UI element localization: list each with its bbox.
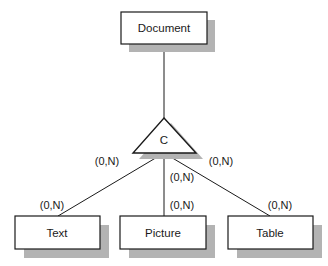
cardinality-picture: (0,N) [170,199,194,211]
connector-label: C [160,134,168,146]
entity-table[interactable]: Table [228,216,322,258]
entity-label: Document [138,22,191,34]
entity-label: Text [46,227,68,239]
generalization-connector[interactable]: C [133,118,203,159]
entity-document[interactable]: Document [121,12,215,52]
cardinality-table: (0,N) [268,199,292,211]
cardinality-right: (0,N) [209,155,233,167]
entity-text[interactable]: Text [15,216,109,258]
entity-label: Picture [145,227,181,239]
cardinality-left: (0,N) [95,155,119,167]
entity-picture[interactable]: Picture [120,216,215,258]
cardinality-center: (0,N) [170,171,194,183]
cardinality-text: (0,N) [40,199,64,211]
diagram-canvas: Document C (0,N) (0,N) (0,N) (0,N) (0,N)… [0,0,328,266]
entity-label: Table [256,227,284,239]
